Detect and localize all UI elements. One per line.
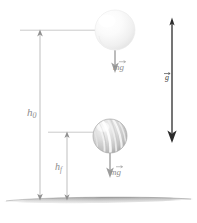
label-h0-subscript: 0	[33, 111, 37, 120]
physics-free-fall-diagram: h0 hf mg mg g	[0, 0, 197, 223]
label-hf-subscript: f	[60, 166, 62, 174]
label-weight-bottom: mg	[110, 168, 121, 177]
label-gravity-field: g	[165, 74, 169, 82]
ground-surface	[4, 197, 193, 203]
label-weight-top: mg	[113, 63, 124, 72]
label-initial-height: h0	[27, 107, 36, 120]
label-final-height: hf	[55, 162, 62, 174]
falling-ball-initial	[95, 10, 135, 50]
label-g-symbol-top: g	[120, 62, 125, 72]
label-g-symbol-right: g	[165, 73, 169, 82]
falling-ball-final	[93, 118, 127, 156]
label-gravity-vector-top: g	[120, 63, 125, 72]
label-gravity-vector-bottom: g	[117, 168, 122, 177]
dimension-line-hf	[64, 132, 69, 201]
dimension-line-h0	[37, 30, 43, 201]
label-gravity-vector-right: g	[165, 74, 169, 82]
label-g-symbol-bottom: g	[117, 167, 122, 177]
